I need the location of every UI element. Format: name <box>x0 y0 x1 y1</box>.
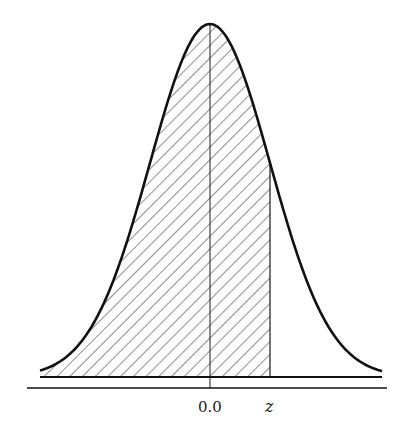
z-label: z <box>265 397 273 416</box>
hatched-region <box>40 24 270 377</box>
shaded-area <box>40 24 270 377</box>
normal-distribution-diagram <box>0 0 410 434</box>
mean-label: 0.0 <box>198 398 222 416</box>
